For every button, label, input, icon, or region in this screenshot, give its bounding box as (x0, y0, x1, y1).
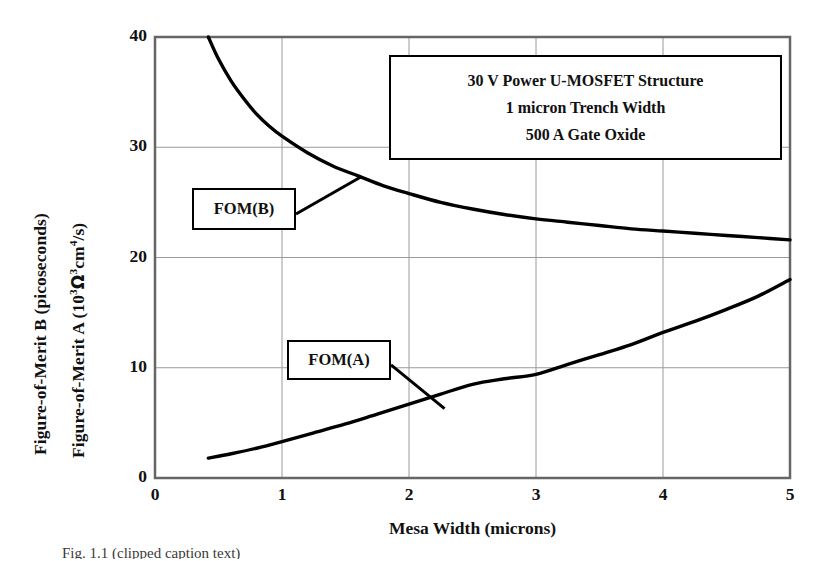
y-tick-label: 30 (103, 135, 147, 156)
x-tick-label: 4 (643, 484, 683, 505)
annotation-label-fom-a: FOM(A) (308, 351, 369, 369)
y-tick-label: 40 (103, 25, 147, 46)
y-tick-label: 20 (103, 246, 147, 267)
info-line-structure: 30 V Power U-MOSFET Structure (468, 72, 704, 90)
x-tick-label: 0 (135, 484, 175, 505)
leader-line-fom-b (296, 177, 361, 214)
x-tick-label: 5 (770, 484, 810, 505)
info-text-box: 30 V Power U-MOSFET Structure 1 micron T… (389, 55, 782, 160)
figure-container: Figure-of-Merit B (picoseconds) Figure-o… (0, 0, 822, 561)
x-tick-label: 2 (389, 484, 429, 505)
x-tick-label: 1 (262, 484, 302, 505)
x-axis-label: Mesa Width (microns) (155, 518, 790, 539)
annotation-box-fom-b: FOM(B) (192, 188, 296, 230)
y-tick-label: 10 (103, 356, 147, 377)
figure-caption: Fig. 1.1 (clipped caption text) (62, 545, 240, 559)
info-line-gate-oxide: 500 A Gate Oxide (526, 126, 646, 144)
annotation-box-fom-a: FOM(A) (287, 340, 391, 380)
info-line-trench-width: 1 micron Trench Width (506, 99, 666, 117)
annotation-label-fom-b: FOM(B) (214, 200, 274, 218)
x-tick-label: 3 (516, 484, 556, 505)
